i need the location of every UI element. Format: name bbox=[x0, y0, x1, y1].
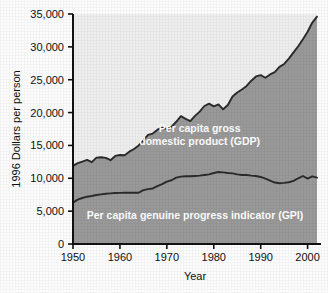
x-tick-label: 1960 bbox=[108, 251, 132, 263]
gdp-annotation-line2: domestic product (GDP) bbox=[139, 135, 260, 147]
x-axis-title: Year bbox=[184, 270, 207, 282]
x-tick-label: 1990 bbox=[248, 251, 272, 263]
y-axis-title: 1996 Dollars per person bbox=[10, 70, 22, 187]
x-tick-label: 1980 bbox=[202, 251, 226, 263]
chart-svg-wrapper: 05,00010,00015,00020,00025,00030,00035,0… bbox=[0, 0, 328, 293]
gdp-annotation-line1: Per capita gross bbox=[159, 122, 241, 134]
y-tick-label: 10,000 bbox=[30, 172, 64, 184]
chart-container: 05,00010,00015,00020,00025,00030,00035,0… bbox=[0, 0, 328, 293]
y-tick-label: 0 bbox=[58, 238, 64, 250]
y-tick-label: 35,000 bbox=[30, 8, 64, 20]
y-tick-label: 25,000 bbox=[30, 74, 64, 86]
x-tick-label: 1970 bbox=[155, 251, 179, 263]
x-tick-label: 2000 bbox=[295, 251, 319, 263]
gpi-annotation: Per capita genuine progress indicator (G… bbox=[87, 209, 303, 221]
y-tick-label: 20,000 bbox=[30, 107, 64, 119]
y-tick-label: 30,000 bbox=[30, 41, 64, 53]
y-tick-label: 5,000 bbox=[36, 205, 64, 217]
x-tick-label: 1950 bbox=[61, 251, 85, 263]
area-chart: 05,00010,00015,00020,00025,00030,00035,0… bbox=[0, 0, 328, 293]
y-tick-label: 15,000 bbox=[30, 139, 64, 151]
